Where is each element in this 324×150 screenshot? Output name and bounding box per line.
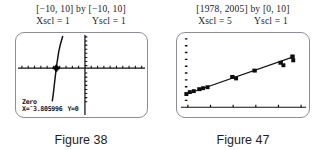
data-point — [197, 87, 201, 91]
calculator-screen-figure-47 — [176, 32, 310, 118]
readout-x-value: X=¯3.805996 — [22, 106, 62, 114]
figure-47: [1978, 2005] by [0, 10] Xscl = 5 Yscl = … — [162, 0, 324, 150]
data-point — [234, 76, 238, 80]
readout-y-value: Y=0 — [67, 106, 78, 114]
data-point — [201, 86, 205, 90]
figure-38-xscl: Xscl = 1 — [36, 15, 70, 28]
data-point — [188, 90, 192, 94]
figure-38-header: [−10, 10] by [−10, 10] Xscl = 1 Yscl = 1 — [0, 0, 162, 28]
figure-47-xscl: Xscl = 5 — [198, 15, 232, 28]
zero-cursor-marker — [53, 65, 60, 72]
figure-47-window-range: [1978, 2005] by [0, 10] — [162, 3, 324, 15]
data-point — [192, 89, 196, 93]
calculator-screen-figure-38: Zero X=¯3.805996 Y=0 — [15, 32, 148, 118]
figure-38-yscl: Yscl = 1 — [92, 15, 126, 28]
figure-38-scale-row: Xscl = 1 Yscl = 1 — [0, 15, 162, 28]
data-point — [206, 85, 210, 89]
figure-38-caption: Figure 38 — [0, 133, 162, 148]
data-point — [252, 69, 256, 73]
readout-values: X=¯3.805996 Y=0 — [22, 106, 78, 114]
figure-47-plot — [177, 33, 309, 117]
data-point — [230, 75, 234, 79]
data-point — [290, 54, 294, 58]
figure-47-scale-row: Xscl = 5 Yscl = 1 — [162, 15, 324, 28]
figure-47-yscl: Yscl = 1 — [254, 15, 288, 28]
data-point — [281, 63, 285, 67]
figure-pair-container: [−10, 10] by [−10, 10] Xscl = 1 Yscl = 1 — [0, 0, 324, 150]
y-axis-ticks — [185, 39, 188, 101]
figure-38-window-range: [−10, 10] by [−10, 10] — [0, 3, 162, 15]
figure-47-caption: Figure 47 — [162, 133, 324, 148]
figure-47-header: [1978, 2005] by [0, 10] Xscl = 5 Yscl = … — [162, 0, 324, 28]
figure-38: [−10, 10] by [−10, 10] Xscl = 1 Yscl = 1 — [0, 0, 162, 150]
data-point — [184, 92, 188, 96]
data-point — [291, 58, 295, 62]
calculator-readout: Zero X=¯3.805996 Y=0 — [22, 99, 78, 114]
